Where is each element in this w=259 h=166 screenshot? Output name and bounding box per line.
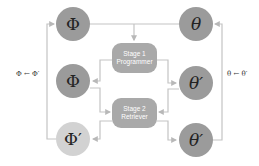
stage-title: Stage 1	[123, 50, 145, 58]
phi-update-label: Φ ← Φ′	[16, 70, 39, 78]
connector-lines	[0, 0, 259, 166]
phi-node-top: Φ	[56, 7, 90, 41]
phi-node-middle: Φ	[56, 64, 90, 98]
theta-prime-symbol: θ′	[189, 73, 203, 93]
stage-1-programmer-box: Stage 1 Programmer	[112, 43, 157, 73]
stage-role: Retriever	[121, 113, 147, 121]
phi-prime-node: Φ′	[56, 122, 90, 156]
stage-2-retriever-box: Stage 2 Retriever	[112, 98, 157, 128]
theta-prime-node-middle: θ′	[179, 66, 213, 100]
stage-role: Programmer	[116, 58, 152, 66]
phi-prime-symbol: Φ′	[64, 129, 82, 149]
phi-symbol: Φ	[66, 71, 80, 91]
theta-prime-symbol: θ′	[189, 130, 203, 150]
theta-prime-node-bottom: θ′	[179, 123, 213, 157]
phi-symbol: Φ	[66, 14, 80, 34]
theta-update-label: θ ← θ′	[227, 70, 247, 78]
stage-title: Stage 2	[123, 105, 145, 113]
theta-symbol: θ	[191, 14, 201, 34]
theta-node-top: θ	[179, 7, 213, 41]
